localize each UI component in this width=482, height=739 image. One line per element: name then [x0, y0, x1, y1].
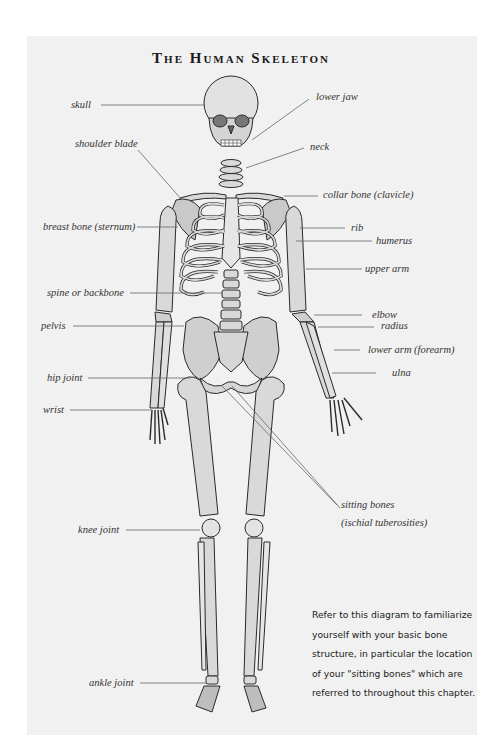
label-neck: neck — [310, 141, 329, 152]
note-line: Refer to this diagram to familiarize — [312, 605, 482, 625]
label-skull: skull — [71, 99, 91, 110]
label-breast-bone: breast bone (sternum) — [43, 221, 135, 232]
label-ankle-joint: ankle joint — [89, 677, 134, 688]
label-pelvis: pelvis — [41, 320, 66, 331]
right-hand-icon — [330, 398, 362, 436]
label-radius: radius — [381, 320, 408, 331]
label-humerus: humerus — [376, 235, 412, 246]
label-ulna: ulna — [392, 367, 411, 378]
label-hip-joint: hip joint — [47, 372, 82, 383]
label-ischial-tuberosities: (ischial tuberosities) — [341, 517, 427, 528]
label-shoulder-blade: shoulder blade — [75, 138, 138, 149]
left-hand-icon — [150, 408, 168, 444]
label-collar-bone: collar bone (clavicle) — [323, 189, 413, 200]
skull-icon — [204, 76, 258, 146]
right-foot-icon — [244, 676, 266, 712]
label-lower-arm: lower arm (forearm) — [368, 344, 455, 355]
label-sitting-bones: sitting bones — [341, 499, 394, 510]
label-spine: spine or backbone — [47, 287, 124, 298]
note-line: of your "sitting bones" which are — [312, 664, 482, 684]
note-line: referred to throughout this chapter. — [312, 683, 482, 703]
label-knee-joint: knee joint — [78, 524, 119, 535]
label-upper-arm: upper arm — [365, 263, 409, 274]
label-rib: rib — [351, 222, 363, 233]
label-wrist: wrist — [43, 404, 64, 415]
note-line: yourself with your basic bone — [312, 625, 482, 645]
explanatory-note: Refer to this diagram to familiarize you… — [312, 605, 482, 703]
note-line: structure, in particular the location — [312, 644, 482, 664]
spine-icon — [220, 270, 242, 330]
label-lower-jaw: lower jaw — [316, 91, 358, 102]
neck-vertebrae-icon — [219, 160, 243, 188]
label-elbow: elbow — [372, 309, 397, 320]
left-foot-icon — [196, 676, 220, 712]
